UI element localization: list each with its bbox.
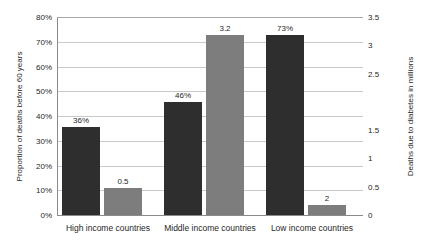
left-tick-label: 50% <box>22 88 52 96</box>
bar-chart: Proportion of deaths before 60 years Dea… <box>0 0 422 244</box>
chart-title-clipped <box>0 0 422 5</box>
right-tick-label: 3 <box>368 42 398 50</box>
right-axis-title: Deaths due to diabetes in millions <box>406 47 415 187</box>
left-tick-label: 70% <box>22 39 52 47</box>
right-tick-label: 3.5 <box>368 14 398 22</box>
left-tick-label: 10% <box>22 187 52 195</box>
category-label: Low income countries <box>261 224 363 233</box>
left-axis-ticks: 0%10%20%30%40%50%60%70%80% <box>22 18 52 216</box>
right-tick-label: 0 <box>368 212 398 220</box>
category-label: Middle income countries <box>159 224 261 233</box>
left-tick-label: 20% <box>22 163 52 171</box>
left-tick-label: 80% <box>22 14 52 22</box>
plot-area: 36%0.546%3.273%2 <box>57 18 363 216</box>
right-tick-label: 2.5 <box>368 71 398 79</box>
left-tick-label: 60% <box>22 64 52 72</box>
right-axis-ticks: 00.511.52.533.5 <box>368 18 398 216</box>
left-tick-label: 40% <box>22 113 52 121</box>
right-tick-label: 1.5 <box>368 127 398 135</box>
right-tick-label: 1 <box>368 155 398 163</box>
left-tick-label: 30% <box>22 138 52 146</box>
plot-frame <box>57 18 363 216</box>
category-label: High income countries <box>57 224 159 233</box>
left-tick-label: 0% <box>22 212 52 220</box>
right-tick-label: 0.5 <box>368 184 398 192</box>
